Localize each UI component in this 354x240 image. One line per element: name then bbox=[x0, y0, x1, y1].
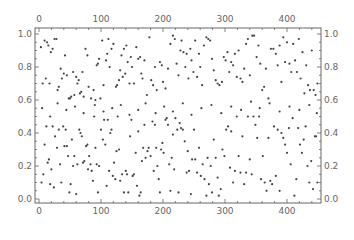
data-point bbox=[53, 186, 55, 188]
data-point bbox=[137, 58, 139, 60]
data-point bbox=[288, 63, 290, 65]
data-point bbox=[296, 71, 298, 73]
data-point bbox=[66, 145, 68, 147]
data-point bbox=[275, 53, 277, 55]
data-point bbox=[282, 137, 284, 139]
data-point bbox=[93, 115, 95, 117]
data-point bbox=[210, 104, 212, 106]
data-point bbox=[140, 73, 142, 75]
data-point bbox=[316, 82, 318, 84]
axis-ticks bbox=[35, 28, 321, 203]
data-point bbox=[184, 66, 186, 68]
data-point bbox=[196, 76, 198, 78]
data-point bbox=[128, 114, 130, 116]
data-point bbox=[76, 163, 78, 165]
data-point bbox=[234, 53, 236, 55]
data-point bbox=[75, 76, 77, 78]
data-point bbox=[280, 132, 282, 134]
data-point bbox=[120, 104, 122, 106]
data-point bbox=[89, 163, 91, 165]
data-point bbox=[133, 173, 135, 175]
data-point bbox=[284, 61, 286, 63]
data-point bbox=[211, 191, 213, 193]
data-point bbox=[288, 106, 290, 108]
data-point bbox=[60, 181, 62, 183]
plot-frame bbox=[35, 28, 321, 203]
data-point bbox=[45, 125, 47, 127]
data-point bbox=[286, 41, 288, 43]
data-point bbox=[156, 89, 158, 91]
data-point bbox=[125, 170, 127, 172]
data-point bbox=[146, 94, 148, 96]
data-point bbox=[112, 43, 114, 45]
data-point bbox=[56, 147, 58, 149]
data-point bbox=[264, 181, 266, 183]
data-point bbox=[282, 36, 284, 38]
data-point bbox=[83, 160, 85, 162]
data-point bbox=[299, 144, 301, 146]
data-point bbox=[86, 144, 88, 146]
data-point bbox=[110, 129, 112, 131]
data-point bbox=[92, 180, 94, 182]
data-point bbox=[256, 56, 258, 58]
data-point bbox=[150, 79, 152, 81]
data-point bbox=[75, 193, 77, 195]
data-point bbox=[232, 64, 234, 66]
x-tick-label-bottom: 300 bbox=[216, 206, 233, 216]
data-point bbox=[226, 51, 228, 53]
data-point bbox=[220, 112, 222, 114]
data-point bbox=[239, 77, 241, 79]
data-point bbox=[62, 125, 64, 127]
data-point bbox=[159, 61, 161, 63]
data-point bbox=[190, 114, 192, 116]
x-tick-label-bottom: 0 bbox=[36, 206, 42, 216]
data-point bbox=[273, 125, 275, 127]
y-tick-label-left: 0.6 bbox=[18, 95, 33, 105]
data-point bbox=[176, 63, 178, 65]
data-point bbox=[182, 51, 184, 53]
data-point bbox=[251, 173, 253, 175]
data-point bbox=[249, 158, 251, 160]
data-point bbox=[58, 86, 60, 88]
data-point bbox=[65, 129, 67, 131]
data-point bbox=[91, 170, 93, 172]
data-point bbox=[117, 115, 119, 117]
data-point bbox=[67, 155, 69, 157]
data-point bbox=[174, 38, 176, 40]
data-point bbox=[194, 158, 196, 160]
data-point bbox=[106, 53, 108, 55]
data-point bbox=[258, 115, 260, 117]
data-point bbox=[44, 144, 46, 146]
data-point bbox=[163, 152, 165, 154]
data-point bbox=[267, 97, 269, 99]
data-point bbox=[249, 74, 251, 76]
data-point bbox=[190, 59, 192, 61]
data-point bbox=[150, 155, 152, 157]
data-point bbox=[263, 86, 265, 88]
data-point bbox=[78, 79, 80, 81]
data-point bbox=[310, 160, 312, 162]
data-point bbox=[308, 181, 310, 183]
data-point bbox=[271, 183, 273, 185]
data-point bbox=[202, 163, 204, 165]
data-point bbox=[247, 38, 249, 40]
data-point bbox=[169, 43, 171, 45]
data-point bbox=[113, 162, 115, 164]
data-point bbox=[139, 56, 141, 58]
data-point bbox=[220, 188, 222, 190]
data-point bbox=[205, 195, 207, 197]
data-point bbox=[207, 157, 209, 159]
data-point bbox=[250, 101, 252, 103]
data-point bbox=[133, 82, 135, 84]
data-point bbox=[260, 178, 262, 180]
data-point bbox=[66, 74, 68, 76]
data-point bbox=[243, 68, 245, 70]
data-point bbox=[101, 40, 103, 42]
data-point bbox=[217, 82, 219, 84]
data-point bbox=[290, 163, 292, 165]
data-point bbox=[179, 122, 181, 124]
data-point bbox=[76, 82, 78, 84]
data-point bbox=[243, 183, 245, 185]
data-point bbox=[125, 44, 127, 46]
data-point bbox=[181, 40, 183, 42]
